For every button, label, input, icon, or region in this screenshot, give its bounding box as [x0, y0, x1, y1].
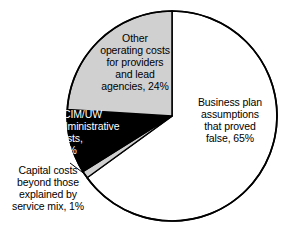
- pie-chart-figure: Other operating costs for providers and …: [0, 0, 287, 232]
- slice-label-capital-costs: Capital costs beyond those explained by …: [2, 165, 94, 213]
- slice-label-business-plan-assumptions: Business plan assumptions that proved fa…: [186, 97, 274, 145]
- slice-label-ecim-uw-administrative-costs: ECIM/UW administrative costs, 10%: [56, 109, 130, 157]
- slice-label-other-operating-costs: Other operating costs for providers and …: [90, 33, 180, 93]
